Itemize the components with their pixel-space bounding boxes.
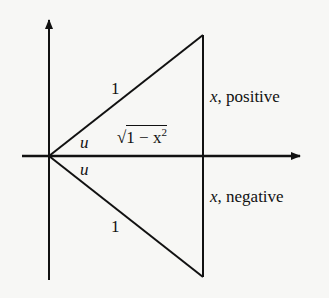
lower-side-var: x (210, 187, 218, 206)
lower-angle-label: u (80, 161, 89, 178)
upper-angle-label: u (80, 134, 89, 151)
upper-side-label: x, positive (210, 88, 280, 105)
upper-side-text: , positive (218, 87, 280, 106)
lower-side-label: x, negative (210, 188, 284, 205)
radical-sign: √ (117, 128, 126, 147)
triangle-diagram: 1 1 u u √1 − x2 x, positive x, negative (0, 0, 329, 298)
exponent: 2 (161, 126, 167, 138)
upper-side-var: x (210, 87, 218, 106)
adjacent-side-label: √1 − x2 (117, 125, 167, 146)
lower-hypotenuse-label: 1 (111, 218, 120, 235)
lower-hypotenuse (49, 156, 203, 277)
lower-side-text: , negative (218, 187, 284, 206)
upper-hypotenuse-label: 1 (111, 80, 120, 97)
radicand: 1 − x2 (126, 125, 167, 146)
diagram-canvas (0, 0, 329, 298)
radicand-text: 1 − x (126, 128, 161, 147)
